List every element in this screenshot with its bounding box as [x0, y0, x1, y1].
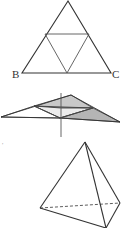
- small-mark: ': [2, 141, 3, 149]
- medial-triangle: [45, 34, 89, 73]
- tetrahedron-figure: [40, 142, 120, 228]
- vertex-label-b: B: [12, 68, 19, 80]
- edge-front-back: [106, 203, 120, 228]
- folded-figure: [1, 93, 120, 137]
- outer-triangle: [22, 1, 111, 73]
- hidden-edge-left-back: [40, 203, 120, 208]
- edge-apex-left: [40, 142, 85, 208]
- geometry-figures: B C ': [0, 0, 123, 228]
- vertex-label-c: C: [112, 68, 119, 80]
- edge-left-front: [40, 208, 106, 228]
- triangle-figure: [22, 1, 111, 73]
- edge-apex-front: [85, 142, 106, 228]
- edge-apex-back: [85, 142, 120, 203]
